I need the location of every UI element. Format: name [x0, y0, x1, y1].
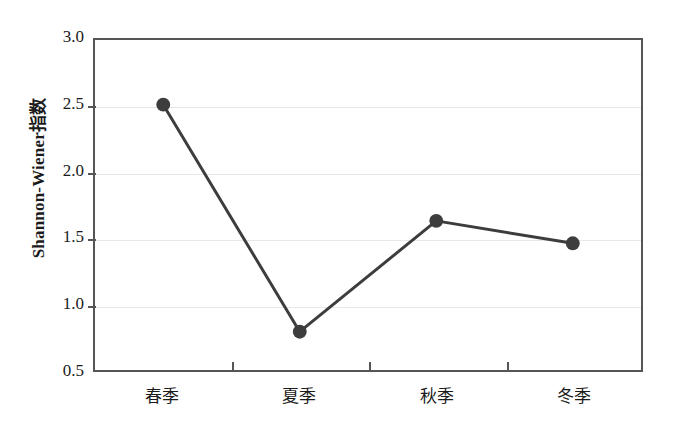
data-point-marker: [156, 98, 170, 112]
x-axis-tick-label: 秋季: [377, 382, 497, 407]
y-axis-tick-label: 3.0: [12, 27, 84, 47]
series-polyline: [163, 105, 573, 332]
data-point-marker: [566, 236, 580, 250]
data-point-marker: [293, 325, 307, 339]
data-point-marker: [429, 214, 443, 228]
y-axis-tick-label: 2.5: [12, 94, 84, 114]
series-markers: [156, 98, 579, 339]
x-axis-tick-label: 冬季: [514, 382, 634, 407]
y-axis-tick-label: 1.0: [12, 294, 84, 314]
y-axis-tick-label: 1.5: [12, 227, 84, 247]
data-series-line: [95, 40, 641, 370]
chart-figure: Shannon-Wiener指数 3.02.52.01.51.00.5 春季夏季…: [0, 0, 677, 435]
y-axis-tick-label: 0.5: [12, 361, 84, 381]
x-axis-tick-label: 春季: [102, 382, 222, 407]
y-axis-tick-label: 2.0: [12, 161, 84, 181]
x-axis-tick-label: 夏季: [239, 382, 359, 407]
plot-area: [93, 38, 643, 372]
